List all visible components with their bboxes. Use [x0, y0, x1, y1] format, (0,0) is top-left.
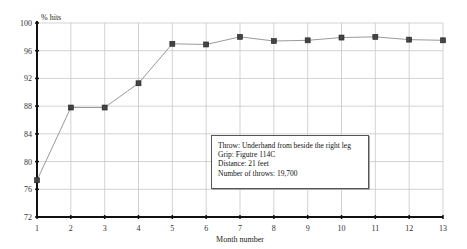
x-tick-label: 12 — [405, 224, 413, 233]
x-tick-label: 11 — [371, 224, 379, 233]
y-tick-label: 76 — [24, 185, 32, 194]
data-point-marker — [339, 35, 344, 40]
x-axis-title: Month number — [216, 235, 264, 244]
x-tick-label: 13 — [439, 224, 447, 233]
data-point-marker — [35, 178, 40, 183]
y-tick-label: 96 — [24, 47, 32, 56]
y-tick-label: 92 — [24, 74, 32, 83]
x-tick-label: 10 — [338, 224, 346, 233]
data-point-marker — [441, 38, 446, 43]
data-point-marker — [373, 34, 378, 39]
x-tick-label: 9 — [306, 224, 310, 233]
data-point-marker — [204, 42, 209, 47]
data-point-marker — [136, 81, 141, 86]
data-point-marker — [305, 38, 310, 43]
y-tick-label: 100 — [20, 19, 32, 28]
x-tick-label: 6 — [204, 224, 208, 233]
data-point-marker — [271, 39, 276, 44]
line-chart: 7276808488929610012345678910111213 % hit… — [0, 0, 467, 249]
x-tick-label: 3 — [103, 224, 107, 233]
x-tick-label: 1 — [35, 224, 39, 233]
data-point-marker — [68, 105, 73, 110]
x-tick-label: 7 — [238, 224, 242, 233]
y-tick-label: 72 — [24, 213, 32, 222]
data-point-marker — [407, 37, 412, 42]
x-tick-label: 5 — [170, 224, 174, 233]
annotation-box: Throw: Underhand from beside the right l… — [211, 135, 369, 189]
data-point-marker — [238, 34, 243, 39]
annotation-throw: Throw: Underhand from beside the right l… — [218, 141, 368, 150]
x-tick-label: 4 — [137, 224, 141, 233]
annotation-number-of-throws: Number of throws: 19,700 — [218, 169, 368, 178]
y-tick-label: 84 — [24, 130, 32, 139]
x-tick-label: 8 — [272, 224, 276, 233]
y-axis-title: % hits — [41, 13, 61, 22]
y-tick-label: 80 — [24, 158, 32, 167]
x-tick-label: 2 — [69, 224, 73, 233]
data-point-marker — [102, 105, 107, 110]
y-tick-label: 88 — [24, 102, 32, 111]
annotation-grip: Grip: Figutre 114C — [218, 150, 368, 159]
annotation-distance: Distance: 21 feet — [218, 159, 368, 168]
data-point-marker — [170, 41, 175, 46]
